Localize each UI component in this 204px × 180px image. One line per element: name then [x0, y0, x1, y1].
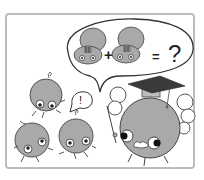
blob-character-left [14, 121, 53, 162]
question-mark: ? [168, 40, 181, 67]
exclamation-mark: ! [79, 94, 82, 106]
professor-character [107, 76, 195, 166]
cartoon-illustration: + = ? ! [0, 0, 204, 180]
equals-sign: = [152, 49, 160, 64]
blob-character-exclaiming [30, 72, 65, 118]
speech-bubble: ! [70, 92, 92, 112]
blob-character-middle [59, 110, 96, 159]
